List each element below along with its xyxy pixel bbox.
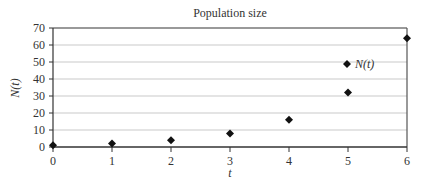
y-tick-label: 40: [33, 72, 45, 86]
x-tick-label: 1: [109, 154, 115, 168]
y-tick-label: 50: [33, 55, 45, 69]
y-tick-label: 20: [33, 106, 45, 120]
data-point-diamond-icon: [226, 129, 234, 137]
population-size-chart: Population size 010203040506070 0123456 …: [0, 0, 424, 192]
data-point-diamond-icon: [403, 34, 411, 42]
data-point-diamond-icon: [285, 116, 293, 124]
x-tick-label: 6: [404, 154, 410, 168]
x-tick-label: 0: [50, 154, 56, 168]
data-points: [49, 34, 411, 149]
y-axis-label: N(t): [8, 78, 22, 98]
data-point-diamond-icon: [344, 89, 352, 97]
y-tick-label: 70: [33, 21, 45, 35]
chart-title: Population size: [193, 6, 267, 20]
data-point-diamond-icon: [167, 136, 175, 144]
data-point-diamond-icon: [49, 141, 57, 149]
axes: [53, 28, 407, 147]
x-tick-label: 4: [286, 154, 292, 168]
legend-label: N(t): [354, 57, 374, 71]
x-tick-label: 2: [168, 154, 174, 168]
x-tick-label: 5: [345, 154, 351, 168]
x-axis-ticks: 0123456: [50, 147, 410, 168]
legend-diamond-icon: [343, 60, 351, 68]
y-tick-label: 30: [33, 89, 45, 103]
y-axis-ticks: 010203040506070: [33, 21, 53, 154]
gridlines: [53, 28, 407, 130]
y-tick-label: 60: [33, 38, 45, 52]
y-tick-label: 10: [33, 123, 45, 137]
y-tick-label: 0: [39, 140, 45, 154]
legend: N(t): [343, 57, 374, 71]
x-axis-label: t: [228, 166, 232, 180]
